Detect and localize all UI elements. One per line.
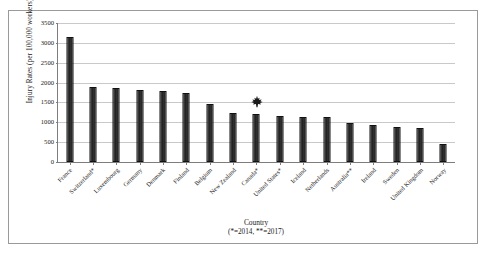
bar	[253, 114, 260, 162]
bar	[276, 116, 283, 162]
bar	[346, 123, 353, 162]
bar-slot	[198, 23, 221, 162]
x-tick-mark	[256, 162, 257, 165]
x-tick-label: Norway	[429, 167, 448, 186]
y-tick-label: 2000	[41, 79, 54, 86]
bar	[183, 93, 190, 162]
bar-slot	[268, 23, 291, 162]
x-tick-mark	[140, 162, 141, 165]
x-axis-title-note: (*=2014, **=2017)	[57, 228, 455, 238]
y-tick-label: 3000	[41, 40, 54, 47]
bar-slot	[315, 23, 338, 162]
bar-slot	[151, 23, 174, 162]
x-tick-mark	[210, 162, 211, 165]
bar-slot	[432, 23, 455, 162]
bar	[206, 104, 213, 162]
x-tick-mark	[280, 162, 281, 165]
x-tick-label: Canada*	[240, 167, 260, 187]
x-tick-label: Denmark	[146, 167, 167, 188]
bar-slot	[128, 23, 151, 162]
x-axis-title-block: Country (*=2014, **=2017)	[57, 218, 455, 238]
bar	[160, 91, 167, 162]
x-tick-label: Netherlands	[304, 167, 330, 193]
x-tick-mark	[350, 162, 351, 165]
bar-slot	[408, 23, 431, 162]
x-tick-label: France	[56, 167, 73, 184]
bar	[230, 113, 237, 162]
x-tick-label: Germany	[122, 167, 143, 188]
y-tick-mark	[56, 162, 59, 163]
bar	[370, 125, 377, 162]
bar-slot	[81, 23, 104, 162]
bar	[416, 128, 423, 162]
y-tick-label: 500	[44, 139, 54, 146]
x-tick-mark	[70, 162, 71, 165]
bar-slot	[175, 23, 198, 162]
y-tick-label: 3500	[41, 20, 54, 27]
figure-frame: Injury Rates (per 100,000 workers) 05001…	[8, 10, 478, 244]
plot-axes: 0500100015002000250030003500	[57, 23, 455, 163]
x-tick-label: Iceland	[290, 167, 308, 185]
x-tick-mark	[420, 162, 421, 165]
x-tick-mark	[303, 162, 304, 165]
x-tick-mark	[93, 162, 94, 165]
bar-series	[58, 23, 455, 162]
x-tick-label: Finland	[172, 167, 190, 185]
bar-slot	[58, 23, 81, 162]
y-axis-title: Injury Rates (per 100,000 workers)	[26, 0, 34, 116]
y-tick-label: 1500	[41, 99, 54, 106]
bar	[323, 117, 330, 162]
x-tick-mark	[373, 162, 374, 165]
x-tick-mark	[163, 162, 164, 165]
bar-slot	[245, 23, 268, 162]
bar	[440, 144, 447, 162]
bar-slot	[385, 23, 408, 162]
y-tick-label: 1000	[41, 119, 54, 126]
x-tick-mark	[327, 162, 328, 165]
x-tick-label: Australia**	[329, 167, 355, 193]
x-tick-label: Sweden	[382, 167, 401, 186]
y-tick-label: 2500	[41, 59, 54, 66]
x-axis-tick-labels: FranceSwitzerland*LuxembourgGermanyDenma…	[57, 167, 455, 215]
x-tick-mark	[116, 162, 117, 165]
plot-area: 0500100015002000250030003500	[57, 23, 455, 163]
x-tick-mark	[186, 162, 187, 165]
bar-slot	[105, 23, 128, 162]
x-tick-mark	[443, 162, 444, 165]
x-tick-mark	[397, 162, 398, 165]
bar	[393, 127, 400, 162]
bar-slot	[362, 23, 385, 162]
bar	[113, 88, 120, 162]
x-axis-title: Country	[57, 218, 455, 228]
y-tick-label: 0	[51, 159, 54, 166]
bar-slot	[221, 23, 244, 162]
bar-slot	[338, 23, 361, 162]
bar	[66, 37, 73, 162]
bar-slot	[292, 23, 315, 162]
x-tick-label: Belgium	[194, 167, 214, 187]
bar	[136, 90, 143, 162]
x-tick-mark	[233, 162, 234, 165]
bar	[300, 117, 307, 162]
bar	[90, 87, 97, 162]
x-tick-label: Ireland	[360, 167, 377, 184]
